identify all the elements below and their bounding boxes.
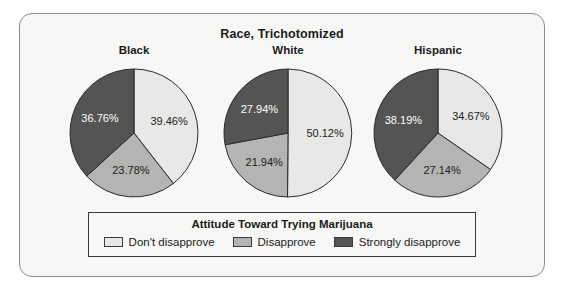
- legend-item: Disapprove: [233, 236, 316, 248]
- pie-slice-label: 27.94%: [241, 103, 279, 115]
- pie-slice-label: 34.67%: [452, 110, 490, 122]
- panel-label-white: White: [203, 44, 373, 56]
- pie-panel-white: White 50.12%21.94%27.94%: [203, 44, 373, 204]
- legend-item: Don't disapprove: [104, 236, 215, 248]
- pie-chart-hispanic: 34.67%27.14%38.19%: [371, 66, 505, 200]
- pie-slice-label: 27.14%: [423, 164, 461, 176]
- legend-swatch-icon: [233, 237, 252, 247]
- pie-slice-label: 38.19%: [385, 114, 423, 126]
- legend-title: Attitude Toward Trying Marijuana: [89, 218, 475, 230]
- legend-swatch-icon: [334, 237, 353, 247]
- pie-panel-hispanic: Hispanic 34.67%27.14%38.19%: [353, 44, 523, 204]
- legend-swatch-icon: [104, 237, 123, 247]
- panel-label-black: Black: [49, 44, 219, 56]
- legend-item: Strongly disapprove: [334, 236, 461, 248]
- pie-slice-label: 36.76%: [81, 112, 119, 124]
- legend-label: Disapprove: [258, 236, 316, 248]
- pie-slice-label: 21.94%: [246, 156, 284, 168]
- legend-label: Don't disapprove: [129, 236, 215, 248]
- figure: Race, Trichotomized Black 39.46%23.78%36…: [0, 0, 564, 294]
- pie-slice-label: 23.78%: [112, 164, 150, 176]
- legend-items: Don't disapproveDisapproveStrongly disap…: [89, 236, 475, 248]
- pie-chart-white: 50.12%21.94%27.94%: [221, 66, 355, 200]
- pie-panel-black: Black 39.46%23.78%36.76%: [49, 44, 219, 204]
- pie-slice-label: 39.46%: [150, 115, 188, 127]
- chart-title: Race, Trichotomized: [0, 27, 564, 41]
- legend: Attitude Toward Trying Marijuana Don't d…: [88, 212, 476, 257]
- panel-label-hispanic: Hispanic: [353, 44, 523, 56]
- legend-label: Strongly disapprove: [359, 236, 461, 248]
- pie-chart-black: 39.46%23.78%36.76%: [67, 66, 201, 200]
- pie-slice-label: 50.12%: [306, 127, 344, 139]
